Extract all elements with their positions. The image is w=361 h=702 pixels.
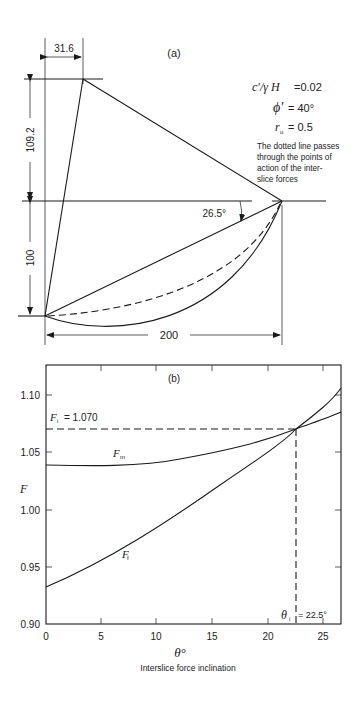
- angle-arc: [240, 201, 242, 221]
- y-tick-1.10: 1.10: [21, 390, 41, 401]
- x-tick-25: 25: [317, 631, 329, 642]
- y-tick-labels: 1.10 1.05 1.00 0.95 0.90: [21, 390, 41, 630]
- slip-surface-curve: [45, 201, 282, 326]
- line-of-thrust-dashed: [48, 204, 280, 316]
- fi-value: = 1.070: [64, 412, 98, 423]
- slope-angle-label: 26.5°: [203, 208, 226, 219]
- y-tick-1.05: 1.05: [21, 447, 41, 458]
- y-axis-label: F: [19, 482, 28, 496]
- top-to-crest-line: [83, 79, 282, 201]
- top-width-value: 31.6: [54, 43, 74, 54]
- upper-height-value: 109.2: [25, 127, 36, 152]
- plot-frame: [46, 365, 341, 624]
- x-axis-symbol: θ°: [174, 645, 186, 660]
- ru-value: = 0.5: [288, 121, 313, 133]
- phi-label: ϕ′: [273, 100, 284, 115]
- ru-subscript: u: [280, 129, 283, 135]
- theta-i-subscript: i: [289, 616, 290, 622]
- panel-b-chart: (b): [19, 365, 341, 673]
- fm-subscript: m: [120, 454, 125, 460]
- x-tick-20: 20: [262, 631, 274, 642]
- panel-a-slope-diagram: (a) 31.6 109.2 100 26.5° 200: [18, 38, 339, 345]
- fi-label: F: [49, 411, 57, 423]
- fm-label: F: [112, 447, 120, 459]
- x-tick-15: 15: [206, 631, 218, 642]
- note-line-3: action of the inter-: [257, 164, 323, 173]
- panel-a-label: (a): [167, 47, 180, 59]
- x-tick-0: 0: [43, 631, 49, 642]
- theta-i-label: θ: [281, 608, 287, 622]
- note-line-2: through the points of: [257, 153, 332, 162]
- panel-b-label: (b): [168, 373, 180, 384]
- x-tick-5: 5: [98, 631, 104, 642]
- y-tick-1.00: 1.00: [21, 505, 41, 516]
- x-tick-10: 10: [150, 631, 162, 642]
- cohesion-value: =0.02: [294, 81, 322, 93]
- cohesion-label: c′/γ H: [252, 80, 281, 94]
- phi-value: = 40°: [288, 102, 314, 114]
- soil-parameters: c′/γ H =0.02 ϕ′ = 40° r u = 0.5: [252, 80, 322, 135]
- base-width-value: 200: [160, 329, 178, 341]
- figure: (a) 31.6 109.2 100 26.5° 200: [0, 0, 361, 702]
- fi-subscript: i: [57, 418, 58, 424]
- lower-height-value: 100: [25, 249, 36, 266]
- y-tick-0.95: 0.95: [21, 562, 41, 573]
- slope-chord: [45, 201, 282, 316]
- theta-i-value: = 22.5°: [298, 610, 327, 620]
- steep-line: [45, 79, 83, 316]
- note-line-1: The dotted line passes: [257, 142, 339, 151]
- top-ticks: [101, 365, 323, 371]
- y-tick-0.90: 0.90: [21, 619, 41, 630]
- note-line-4: slice forces: [257, 175, 298, 184]
- x-axis-title: Interslice force inclination: [140, 663, 236, 673]
- note-text: The dotted line passes through the point…: [257, 142, 339, 184]
- right-ticks: [335, 395, 341, 567]
- x-tick-labels: 0 5 10 15 20 25: [43, 631, 329, 642]
